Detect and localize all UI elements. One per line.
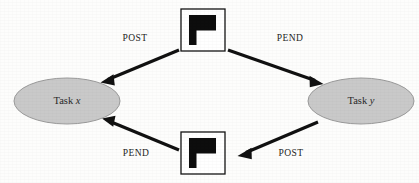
- edge-pend-bottom: [102, 116, 179, 150]
- task-x-label-variable: x: [75, 95, 81, 106]
- edge-post-top-line: [108, 50, 179, 80]
- node-event-flag-top[interactable]: [181, 9, 225, 51]
- task-synchronization-diagram: Task x Task y POST: [0, 0, 419, 183]
- node-task-y[interactable]: Task y: [308, 78, 414, 124]
- node-event-flag-bottom[interactable]: [181, 132, 225, 174]
- edge-pend-top: [228, 50, 324, 87]
- edge-pend-top-line: [228, 50, 315, 81]
- task-y-label: Task y: [348, 95, 375, 106]
- edge-label-post-bottom: POST: [279, 148, 304, 158]
- task-y-label-prefix: Task: [348, 95, 370, 106]
- edge-label-post-top: POST: [123, 33, 148, 43]
- edge-post-bottom-arrowhead: [238, 148, 252, 159]
- edge-label-pend-bottom: PEND: [123, 148, 149, 158]
- edge-label-pend-top: PEND: [277, 33, 303, 43]
- diagram-canvas: Task x Task y POST: [0, 0, 419, 183]
- task-x-label: Task x: [54, 95, 81, 106]
- edge-pend-bottom-line: [110, 122, 179, 151]
- node-task-x[interactable]: Task x: [14, 78, 120, 124]
- task-y-label-variable: y: [369, 95, 375, 106]
- task-x-label-prefix: Task: [54, 95, 76, 106]
- edge-post-top: [101, 50, 180, 85]
